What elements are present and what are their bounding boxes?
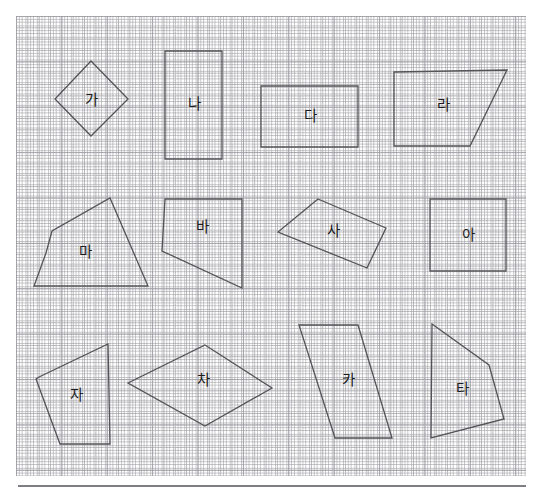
shape-ta[interactable]: 타 [431, 324, 504, 438]
shape-cha[interactable]: 차 [128, 345, 272, 426]
shape-na[interactable]: 나 [165, 51, 222, 159]
shape-ja[interactable]: 자 [36, 344, 110, 444]
shape-da[interactable]: 다 [261, 86, 358, 147]
shape-sa[interactable]: 사 [278, 199, 386, 268]
shape-ma[interactable]: 마 [34, 198, 148, 286]
shape-outline-ra [394, 70, 507, 146]
shape-label-ga: 가 [85, 92, 98, 108]
shape-outline-ba [162, 199, 242, 288]
shape-ra[interactable]: 라 [394, 70, 507, 146]
footer-rule [18, 485, 526, 487]
shape-label-da: 다 [304, 108, 317, 124]
shape-label-ra: 라 [437, 97, 450, 113]
shape-label-ka: 카 [342, 372, 355, 388]
worksheet-page: 가나다라마바사아자차카타 [0, 0, 539, 492]
shape-outline-ma [34, 198, 148, 286]
shape-ka[interactable]: 카 [299, 325, 392, 438]
shape-ba[interactable]: 바 [162, 199, 242, 288]
shape-label-ma: 마 [79, 244, 92, 260]
shape-label-ba: 바 [196, 219, 209, 235]
shape-a[interactable]: 아 [430, 199, 506, 271]
shape-label-sa: 사 [327, 223, 340, 239]
shape-label-a: 아 [462, 227, 475, 243]
shape-label-ja: 자 [70, 387, 83, 403]
shape-ga[interactable]: 가 [55, 61, 128, 136]
shape-label-na: 나 [188, 96, 201, 112]
shape-label-cha: 차 [197, 372, 210, 388]
shape-label-ta: 타 [456, 381, 469, 397]
shapes-layer: 가나다라마바사아자차카타 [0, 0, 539, 492]
